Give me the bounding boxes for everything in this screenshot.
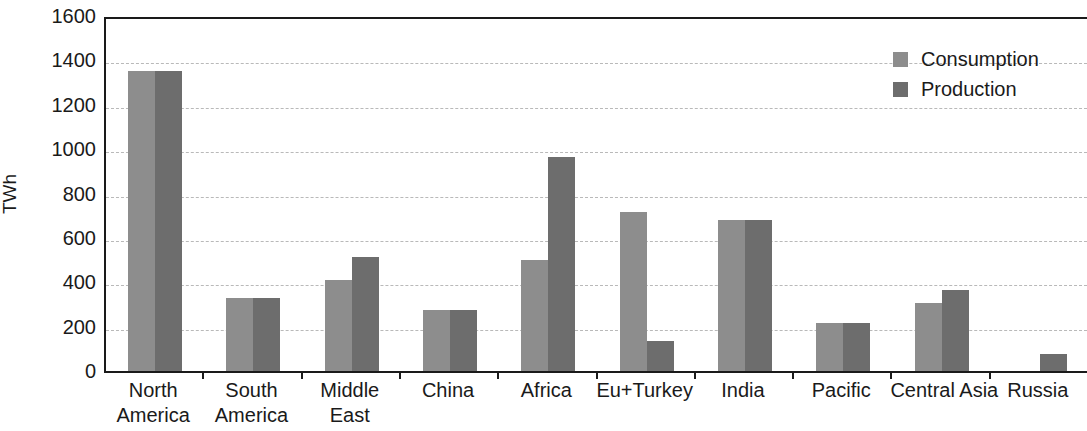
bar-production bbox=[352, 257, 379, 372]
legend-entry: Consumption bbox=[893, 44, 1083, 74]
x-axis-tick-label-line: America bbox=[202, 403, 300, 428]
y-axis-tick-label: 800 bbox=[34, 184, 96, 204]
x-axis-tick-label-line: North bbox=[104, 378, 202, 403]
x-axis-tick-label: MiddleEast bbox=[301, 378, 399, 428]
x-axis-tick-label: Pacific bbox=[792, 378, 890, 403]
y-axis-tick-label: 200 bbox=[34, 317, 96, 337]
bar-chart: TWh 02004006008001000120014001600 NorthA… bbox=[0, 0, 1087, 431]
chart-legend: ConsumptionProduction bbox=[893, 44, 1083, 104]
bar-group bbox=[423, 19, 477, 372]
x-axis-tick-label-line: India bbox=[694, 378, 792, 403]
y-axis-tick-label: 1400 bbox=[34, 50, 96, 70]
bar-consumption bbox=[915, 303, 942, 372]
y-axis-tick-label: 400 bbox=[34, 272, 96, 292]
x-axis-tick-label-line: Africa bbox=[497, 378, 595, 403]
x-axis-tick-label-line: America bbox=[104, 403, 202, 428]
y-axis-tick-label: 1600 bbox=[34, 6, 96, 26]
x-axis-tick-label-line: Pacific bbox=[792, 378, 890, 403]
bar-group bbox=[521, 19, 575, 372]
x-axis-tick-label: Russia bbox=[989, 378, 1087, 403]
x-axis-tick-label-line: Russia bbox=[989, 378, 1087, 403]
bar-production bbox=[647, 341, 674, 372]
y-axis-tick-label: 600 bbox=[34, 228, 96, 248]
bar-group bbox=[226, 19, 280, 372]
bar-consumption bbox=[718, 220, 745, 372]
bar-group bbox=[325, 19, 379, 372]
bar-group bbox=[816, 19, 870, 372]
y-axis-tick-label: 1000 bbox=[34, 139, 96, 159]
bar-consumption bbox=[128, 71, 155, 372]
bar-production bbox=[155, 71, 182, 372]
y-axis-title: TWh bbox=[0, 162, 21, 226]
x-axis-tick-label-line: East bbox=[301, 403, 399, 428]
bar-group bbox=[620, 19, 674, 372]
bar-production bbox=[253, 298, 280, 372]
bar-consumption bbox=[816, 323, 843, 372]
x-axis-tick-label-line: South bbox=[202, 378, 300, 403]
bar-consumption bbox=[521, 260, 548, 372]
bar-production bbox=[745, 220, 772, 372]
legend-label: Consumption bbox=[921, 49, 1039, 69]
x-axis-tick-label-line: Middle bbox=[301, 378, 399, 403]
bar-group bbox=[128, 19, 182, 372]
x-axis-tick-label: SouthAmerica bbox=[202, 378, 300, 428]
y-axis-tick-label: 0 bbox=[34, 361, 96, 381]
x-axis-tick-label: NorthAmerica bbox=[104, 378, 202, 428]
bar-production bbox=[843, 323, 870, 372]
x-axis-tick-label: China bbox=[399, 378, 497, 403]
x-axis-tick-label-line: China bbox=[399, 378, 497, 403]
y-axis-tick-labels: 02004006008001000120014001600 bbox=[34, 0, 96, 431]
x-axis-tick-label: Africa bbox=[497, 378, 595, 403]
legend-swatch-icon bbox=[893, 82, 908, 97]
legend-label: Production bbox=[921, 79, 1017, 99]
bar-consumption bbox=[226, 298, 253, 372]
x-axis-tick-label-line: Eu+Turkey bbox=[596, 378, 694, 403]
legend-swatch-icon bbox=[893, 52, 908, 67]
x-axis-tick-label: Eu+Turkey bbox=[596, 378, 694, 403]
bar-consumption bbox=[620, 212, 647, 372]
x-axis-tick-labels: NorthAmericaSouthAmericaMiddleEastChinaA… bbox=[104, 378, 1087, 431]
bar-consumption bbox=[325, 280, 352, 372]
bar-production bbox=[1040, 354, 1067, 372]
bar-production bbox=[450, 310, 477, 372]
x-axis-tick-label-line: Central Asia bbox=[890, 378, 988, 403]
x-axis-tick-label: India bbox=[694, 378, 792, 403]
x-axis-tick-label: Central Asia bbox=[890, 378, 988, 403]
bar-consumption bbox=[423, 310, 450, 372]
bar-group bbox=[718, 19, 772, 372]
y-axis-tick-label: 1200 bbox=[34, 95, 96, 115]
bar-production bbox=[942, 290, 969, 372]
bar-production bbox=[548, 157, 575, 372]
legend-entry: Production bbox=[893, 74, 1083, 104]
